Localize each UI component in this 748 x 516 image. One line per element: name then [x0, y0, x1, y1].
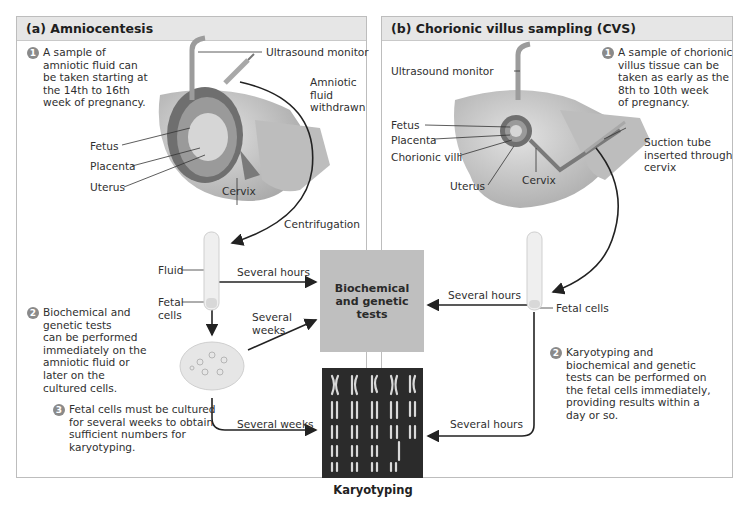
- karyotype-image: [322, 368, 423, 478]
- label-b-placenta: Placenta: [391, 134, 437, 147]
- label-a-placenta: Placenta: [90, 160, 136, 173]
- step-a-3: 3 Fetal cells must be cultured for sever…: [53, 403, 216, 453]
- chromosomes-icon: [322, 368, 423, 478]
- label-b-uterus: Uterus: [450, 180, 485, 193]
- step-number-badge: 1: [27, 47, 39, 59]
- label-a-uterus: Uterus: [90, 181, 125, 194]
- label-b-several-hours-upper: Several hours: [448, 289, 521, 302]
- step-a-2-text: Biochemical and genetic tests can be per…: [27, 306, 146, 394]
- step-number-badge: 2: [550, 347, 562, 359]
- label-b-cervix: Cervix: [522, 174, 556, 187]
- step-b-2: 2 Karyotyping and biochemical and geneti…: [550, 346, 711, 422]
- amniocentesis-illustration: [159, 38, 330, 201]
- step-number-badge: 2: [27, 307, 39, 319]
- biochemical-genetic-tests-box: Biochemical and genetic tests: [320, 250, 424, 352]
- karyotyping-label: Karyotyping: [310, 483, 436, 497]
- label-b-several-hours-lower: Several hours: [450, 418, 523, 431]
- step-b-1: 1 A sample of chorionic villus tissue ca…: [602, 46, 732, 109]
- label-suction-tube: Suction tube inserted through cervix: [644, 136, 732, 174]
- label-a-several-weeks-upper: Several weeks: [252, 311, 292, 336]
- step-b-1-text: A sample of chorionic villus tissue can …: [602, 46, 732, 109]
- step-number-badge: 3: [53, 404, 65, 416]
- label-a-several-hours: Several hours: [237, 266, 310, 279]
- step-a-3-text: Fetal cells must be cultured for several…: [53, 403, 216, 453]
- petri-dish: [180, 342, 244, 390]
- label-fluid: Fluid: [158, 264, 183, 277]
- label-a-ultrasound: Ultrasound monitor: [266, 46, 369, 59]
- label-b-ultrasound: Ultrasound monitor: [391, 65, 494, 78]
- step-a-1: 1 A sample of amniotic fluid can be take…: [27, 46, 148, 109]
- step-a-1-text: A sample of amniotic fluid can be taken …: [27, 46, 148, 109]
- step-b-2-text: Karyotyping and biochemical and genetic …: [550, 346, 711, 422]
- label-b-fetal-cells: Fetal cells: [556, 302, 609, 315]
- step-a-2: 2 Biochemical and genetic tests can be p…: [27, 306, 146, 394]
- label-a-cervix: Cervix: [222, 185, 256, 198]
- label-a-fetus: Fetus: [90, 140, 118, 153]
- label-a-fetal-cells: Fetal cells: [158, 296, 184, 321]
- test-tube-a: [204, 232, 219, 310]
- label-b-fetus: Fetus: [391, 119, 419, 132]
- label-a-fluid-withdrawn: Amniotic fluid withdrawn: [310, 76, 365, 114]
- test-tube-b: [527, 232, 542, 310]
- step-number-badge: 1: [602, 47, 614, 59]
- label-centrifugation: Centrifugation: [284, 218, 360, 231]
- label-b-chorionic-villi: Chorionic villi: [391, 151, 462, 164]
- label-a-several-weeks-lower: Several weeks: [237, 418, 314, 431]
